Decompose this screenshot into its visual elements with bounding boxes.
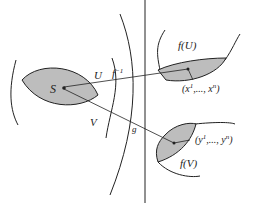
u-boundary-curve — [11, 60, 18, 125]
point-s-dot — [62, 86, 66, 90]
label-f-inverse: f−1 — [112, 68, 123, 79]
point-gy-dot — [173, 142, 176, 145]
x-close: ) — [216, 83, 219, 94]
point-fx-dot — [187, 68, 190, 71]
intersection-region — [22, 68, 98, 105]
label-y-coords: (y1,..., yn) — [195, 134, 233, 145]
label-v: V — [90, 117, 97, 128]
y-open: (y — [195, 134, 203, 145]
label-f-v: f(V) — [180, 158, 197, 169]
label-point-s: S — [50, 83, 56, 95]
y-close: ) — [229, 134, 232, 145]
x-mid: ,..., x — [193, 83, 212, 94]
x-open: (x — [182, 83, 190, 94]
label-f-u: f(U) — [178, 40, 196, 51]
label-u: U — [94, 70, 102, 81]
label-x-coords: (x1,..., xn) — [182, 83, 220, 94]
manifold-boundary-arc — [110, 14, 133, 195]
label-inverse-exp: −1 — [115, 67, 123, 75]
diagram-canvas: S U V f−1 g f(U) (x1,..., xn) (y1,..., y… — [0, 0, 253, 203]
g-map-line — [64, 89, 174, 143]
f-v-top-curve — [195, 123, 235, 125]
diagram-drawing — [0, 0, 253, 203]
label-g: g — [132, 125, 137, 134]
y-mid: ,..., y — [206, 134, 225, 145]
